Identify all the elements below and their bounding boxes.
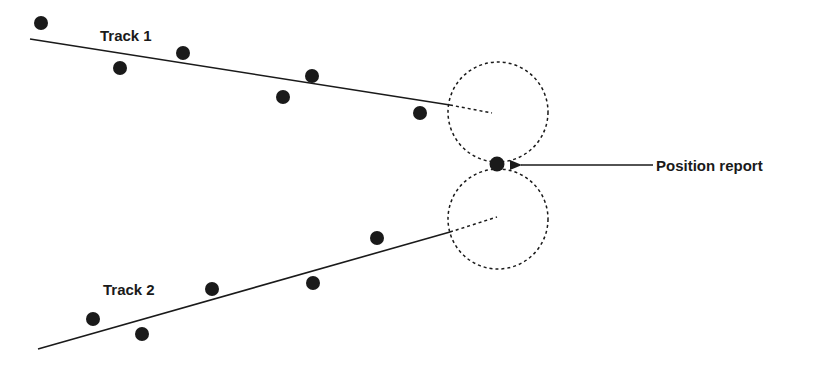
track-2-point <box>370 231 384 245</box>
track-1-point <box>276 90 290 104</box>
position-report-label: Position report <box>656 157 763 174</box>
track-1-line <box>30 39 450 105</box>
track-1-extrapolation <box>450 105 492 113</box>
gate-circle-2 <box>448 169 548 269</box>
track-1-label: Track 1 <box>100 27 152 44</box>
tracks <box>30 16 497 349</box>
track-1-point <box>176 46 190 60</box>
track-2-point <box>135 327 149 341</box>
track-2-point <box>86 312 100 326</box>
track-1-point <box>413 106 427 120</box>
track-2-point <box>205 282 219 296</box>
track-1-point <box>305 69 319 83</box>
track-1-point <box>34 16 48 30</box>
gate-circle-1 <box>448 62 548 162</box>
track-2-line <box>38 232 450 349</box>
track-2-point <box>306 276 320 290</box>
position-report-point <box>490 157 505 172</box>
track-1-point <box>113 61 127 75</box>
track-2-label: Track 2 <box>103 281 155 298</box>
track-2-extrapolation <box>450 217 497 232</box>
track-association-diagram: Track 1 Track 2 Position report <box>0 0 815 372</box>
